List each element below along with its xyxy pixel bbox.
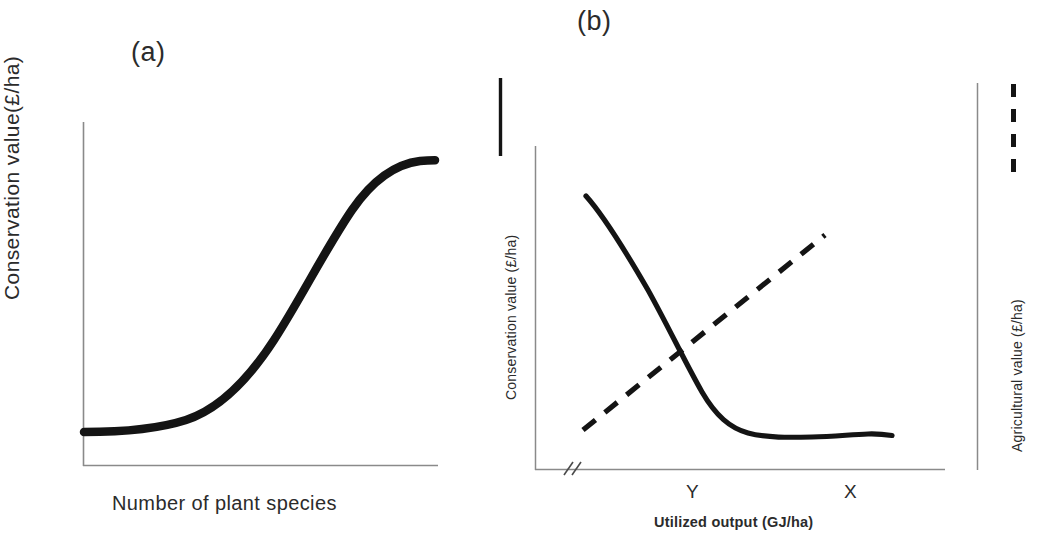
panel-b-y-axis-label-left: Conservation value (£/ha) — [503, 235, 519, 400]
panel-b-agricultural-line — [583, 235, 825, 430]
panel-a-conservation-curve — [84, 160, 435, 432]
figure-canvas — [0, 0, 1038, 550]
panel-b-tag: (b) — [577, 6, 612, 37]
panel-b-conservation-curve — [586, 196, 892, 437]
panel-b — [535, 83, 978, 475]
axis-break-icon — [564, 462, 581, 475]
panel-a — [83, 122, 438, 466]
panel-b-tick-label-x: X — [844, 481, 857, 503]
panel-b-y-axis-label-right: Agricultural value (£/ha) — [1009, 299, 1025, 452]
panel-b-x-axis-label: Utilized output (GJ/ha) — [654, 514, 813, 530]
panel-a-tag: (a) — [131, 37, 166, 68]
panel-a-x-axis-label: Number of plant species — [112, 492, 337, 515]
panel-a-y-axis-label: Conservation value(£/ha) — [0, 56, 24, 300]
panel-b-tick-label-y: Y — [686, 481, 699, 503]
